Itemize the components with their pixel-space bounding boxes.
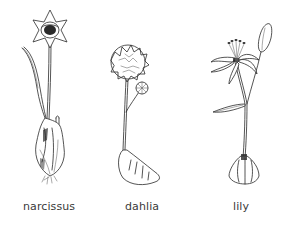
dahlia-label: dahlia bbox=[125, 200, 159, 213]
lily-drawing bbox=[195, 0, 298, 200]
dahlia-drawing bbox=[95, 0, 200, 200]
narcissus-drawing bbox=[0, 0, 100, 200]
narcissus-illustration: narcissus bbox=[0, 0, 100, 200]
plant-illustration-figure: narcissus dahlia bbox=[0, 0, 298, 228]
lily-label: lily bbox=[233, 200, 249, 213]
dahlia-small-flower bbox=[136, 82, 148, 94]
narcissus-label: narcissus bbox=[23, 200, 75, 213]
lily-illustration: lily bbox=[195, 0, 298, 200]
dahlia-flower-head bbox=[111, 45, 149, 82]
dahlia-illustration: dahlia bbox=[95, 0, 200, 200]
